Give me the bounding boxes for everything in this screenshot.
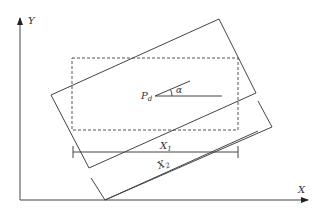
x-axis-label: X [297,184,306,195]
outer-rectangle-edge [258,101,272,127]
angle-arc [171,90,173,97]
rotated-reference-line [155,81,190,96]
outer-rectangle-top [105,127,272,200]
bounding-box [72,58,238,130]
y-axis-label: Y [28,15,36,26]
x1-label: X1 [159,140,172,153]
point-label: Pd [140,90,153,103]
diagram-canvas: Y X X1 X2 α Pd [0,0,318,219]
angle-label: α [176,85,182,95]
outer-rectangle [91,131,258,200]
